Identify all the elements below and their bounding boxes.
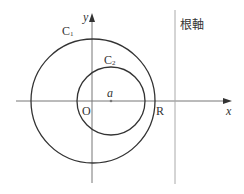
x-axis-label: x [225, 104, 232, 118]
y-axis-arrow-icon [89, 13, 95, 22]
radical-axis-label: 根軸 [180, 18, 204, 32]
circle-c1-label: C1 [62, 24, 74, 38]
y-axis-label: y [82, 10, 89, 24]
diagram-canvas: x y O R a C1 C2 根軸 [0, 0, 244, 194]
point-a-label: a [107, 86, 113, 100]
intersection-label-r: R [156, 104, 164, 118]
point-a [110, 100, 113, 103]
circle-c2-label: C2 [104, 53, 116, 67]
radical-axis-diagram: x y O R a C1 C2 根軸 [0, 0, 244, 194]
origin-label: O [82, 104, 91, 118]
